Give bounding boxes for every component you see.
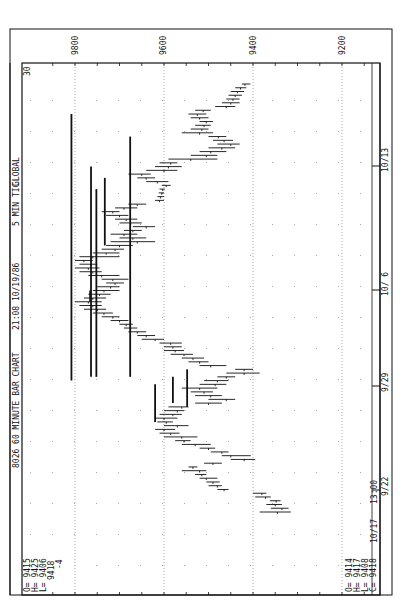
grid-dot — [162, 410, 163, 411]
grid-dot — [118, 100, 119, 101]
grid-dot — [228, 565, 229, 566]
grid-dot — [74, 317, 75, 318]
grid-dot — [52, 441, 53, 442]
grid-dot — [272, 472, 273, 473]
grid-dot — [140, 286, 141, 287]
grid-dot — [316, 348, 317, 349]
grid-dot — [206, 100, 207, 101]
grid-dot — [52, 162, 53, 163]
grid-dot — [140, 472, 141, 473]
grid-dot — [360, 534, 361, 535]
grid-dot — [228, 534, 229, 535]
grid-dot — [162, 317, 163, 318]
grid-dot — [74, 286, 75, 287]
grid-dot — [338, 317, 339, 318]
grid-dot — [30, 162, 31, 163]
grid-dot — [250, 410, 251, 411]
grid-dot — [184, 503, 185, 504]
grid-dot — [250, 441, 251, 442]
grid-dot — [96, 503, 97, 504]
grid-dot — [184, 317, 185, 318]
grid-dot — [52, 503, 53, 504]
price-tick-label: 9400 — [249, 36, 258, 55]
grid-dot — [272, 193, 273, 194]
grid-dot — [272, 503, 273, 504]
grid-dot — [294, 472, 295, 473]
grid-dot — [184, 255, 185, 256]
grid-dot — [316, 255, 317, 256]
grid-dot — [96, 472, 97, 473]
grid-dot — [184, 131, 185, 132]
grid-dot — [206, 379, 207, 380]
grid-dot — [140, 565, 141, 566]
grid-dot — [162, 565, 163, 566]
grid-dot — [162, 131, 163, 132]
grid-dot — [360, 224, 361, 225]
grid-dot — [338, 100, 339, 101]
grid-dot — [118, 193, 119, 194]
grid-dot — [338, 162, 339, 163]
grid-dot — [162, 441, 163, 442]
grid-dot — [294, 100, 295, 101]
grid-dot — [316, 193, 317, 194]
left-readout-change: -4 — [55, 559, 64, 569]
grid-dot — [30, 131, 31, 132]
grid-dot — [228, 410, 229, 411]
grid-dot — [228, 100, 229, 101]
grid-dot — [184, 224, 185, 225]
grid-dot — [30, 503, 31, 504]
price-tick-label: 9200 — [338, 36, 347, 55]
grid-dot — [96, 162, 97, 163]
chart-canvas — [0, 0, 405, 609]
grid-dot — [96, 534, 97, 535]
grid-dot — [52, 348, 53, 349]
grid-dot — [30, 255, 31, 256]
grid-dot — [118, 255, 119, 256]
grid-dot — [140, 503, 141, 504]
grid-dot — [360, 410, 361, 411]
grid-dot — [250, 224, 251, 225]
grid-dot — [206, 224, 207, 225]
grid-dot — [30, 379, 31, 380]
grid-dot — [272, 534, 273, 535]
grid-dot — [118, 410, 119, 411]
grid-dot — [228, 193, 229, 194]
grid-dot — [338, 255, 339, 256]
grid-dot — [250, 162, 251, 163]
grid-dot — [360, 255, 361, 256]
grid-dot — [74, 100, 75, 101]
grid-dot — [316, 534, 317, 535]
grid-dot — [294, 162, 295, 163]
grid-dot — [360, 503, 361, 504]
grid-dot — [30, 317, 31, 318]
grid-dot — [74, 224, 75, 225]
grid-dot — [360, 379, 361, 380]
grid-dot — [228, 441, 229, 442]
grid-dot — [228, 224, 229, 225]
grid-dot — [338, 441, 339, 442]
date-tick-label: 10/ 6 — [381, 272, 390, 296]
grid-dot — [250, 255, 251, 256]
grid-dot — [206, 255, 207, 256]
grid-dot — [360, 131, 361, 132]
grid-dot — [206, 565, 207, 566]
grid-dot — [140, 379, 141, 380]
grid-dot — [140, 441, 141, 442]
grid-dot — [272, 410, 273, 411]
grid-dot — [30, 348, 31, 349]
header-mode: GLOBAL — [12, 157, 21, 186]
grid-dot — [52, 286, 53, 287]
grid-dot — [52, 472, 53, 473]
grid-dot — [316, 286, 317, 287]
grid-dot — [360, 472, 361, 473]
grid-dot — [184, 348, 185, 349]
grid-dot — [206, 317, 207, 318]
grid-dot — [228, 255, 229, 256]
grid-dot — [294, 286, 295, 287]
grid-dot — [272, 131, 273, 132]
grid-dot — [30, 224, 31, 225]
grid-dot — [52, 255, 53, 256]
date-tick-label: 9/29 — [381, 373, 390, 392]
close-value: 9418 — [369, 558, 378, 577]
grid-dot — [294, 317, 295, 318]
